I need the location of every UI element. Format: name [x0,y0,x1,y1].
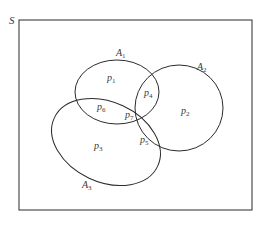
region-p2-label: p2 [180,105,190,118]
region-p5-label: p5 [139,134,149,147]
region-p4-label: p4 [143,87,153,100]
region-p6-label: p6 [96,101,106,114]
set-a1-label: A1 [115,47,126,60]
universe-label: S [9,14,15,26]
region-p3-label: p3 [93,140,103,153]
set-a2-label: A2 [196,61,207,74]
region-p1-label: p1 [106,72,116,85]
set-a3-label: A3 [81,179,92,192]
venn-diagram: S A1 A2 A3 p1 p2 p3 p4 p5 p6 p7 [0,0,266,237]
set-a3-ellipse [37,82,174,203]
